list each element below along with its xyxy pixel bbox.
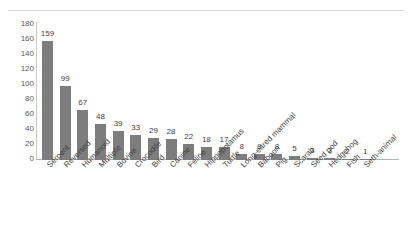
y-axis-tick-label: 80 — [10, 95, 34, 103]
y-axis-tick-label: 60 — [10, 110, 34, 118]
bar-group: 1 — [360, 16, 371, 160]
top-divider — [8, 10, 404, 11]
bar-group: 3 — [307, 16, 318, 160]
y-axis-tick-label: 40 — [10, 125, 34, 133]
bar-group: 33 — [130, 16, 141, 160]
bar-group: 5 — [289, 16, 300, 160]
y-axis-tick-label: 180 — [10, 20, 34, 28]
bar-chart-figure: 020406080100120140160180 159996748393329… — [0, 0, 411, 237]
y-axis-tick-label: 140 — [10, 50, 34, 58]
bar-group: 28 — [166, 16, 177, 160]
y-axis-tick-label: 20 — [10, 140, 34, 148]
bar-value-label: 67 — [70, 99, 95, 107]
y-axis: 020406080100120140160180 — [6, 0, 34, 237]
bar-group: 22 — [183, 16, 194, 160]
bar[interactable] — [42, 41, 53, 160]
bar-value-label: 99 — [53, 75, 78, 83]
bar-group: 159 — [42, 16, 53, 160]
bar-value-label: 159 — [35, 30, 60, 38]
y-axis-tick-label: 0 — [10, 155, 34, 163]
y-axis-tick-label: 160 — [10, 35, 34, 43]
y-axis-tick-label: 120 — [10, 65, 34, 73]
y-axis-tick-label: 100 — [10, 80, 34, 88]
bar-group: 39 — [113, 16, 124, 160]
bar-group: 18 — [201, 16, 212, 160]
plot-area: 1599967483933292822181788853321 — [36, 16, 404, 160]
bar-group: 99 — [60, 16, 71, 160]
